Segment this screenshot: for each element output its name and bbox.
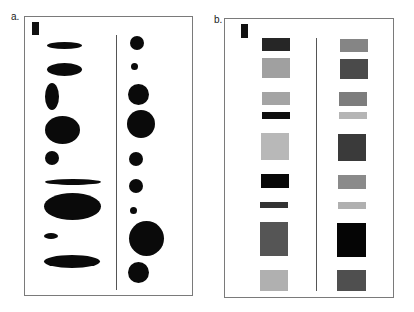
gray-rectangle-stimulus: [262, 112, 290, 119]
ellipse-stimulus: [45, 116, 80, 144]
panel-a-label: a.: [11, 12, 19, 22]
reference-marker: [241, 24, 248, 38]
ellipse-stimulus: [45, 83, 59, 110]
gray-rectangle-stimulus: [260, 202, 288, 208]
ellipse-stimulus: [47, 42, 82, 49]
ellipse-stimulus: [47, 63, 82, 76]
circle-stimulus: [128, 84, 149, 105]
gray-rectangle-stimulus: [339, 92, 367, 106]
ellipse-stimulus: [45, 151, 59, 165]
circle-stimulus: [131, 63, 138, 70]
circle-stimulus: [129, 221, 164, 256]
gray-rectangle-stimulus: [338, 202, 366, 209]
ellipse-stimulus: [44, 255, 100, 268]
circle-stimulus: [129, 152, 143, 166]
gray-rectangle-stimulus: [260, 222, 288, 256]
circle-stimulus: [127, 110, 155, 138]
gray-rectangle-stimulus: [340, 59, 368, 79]
circle-stimulus: [129, 179, 143, 193]
ellipse-stimulus: [45, 179, 101, 185]
gray-rectangle-stimulus: [262, 38, 290, 51]
column-divider: [316, 38, 317, 291]
circle-stimulus: [130, 207, 137, 214]
gray-rectangle-stimulus: [338, 134, 366, 161]
circle-stimulus: [130, 36, 144, 50]
gray-rectangle-stimulus: [337, 223, 366, 257]
circle-stimulus: [128, 262, 149, 283]
gray-rectangle-stimulus: [262, 92, 290, 105]
panel-b-frame: [224, 18, 394, 298]
column-divider: [116, 35, 117, 290]
gray-rectangle-stimulus: [261, 133, 289, 160]
ellipse-stimulus: [44, 193, 101, 220]
gray-rectangle-stimulus: [339, 112, 367, 119]
gray-rectangle-stimulus: [261, 174, 289, 188]
gray-rectangle-stimulus: [260, 270, 288, 291]
gray-rectangle-stimulus: [337, 270, 366, 291]
reference-marker: [32, 22, 39, 35]
gray-rectangle-stimulus: [338, 175, 366, 189]
gray-rectangle-stimulus: [262, 58, 290, 78]
gray-rectangle-stimulus: [340, 39, 368, 52]
panel-b-label: b.: [214, 15, 222, 25]
ellipse-stimulus: [44, 233, 58, 239]
